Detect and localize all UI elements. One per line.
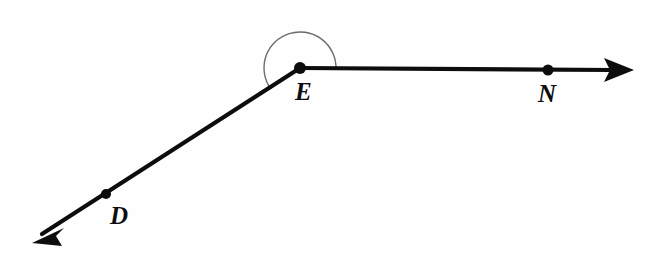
point-label-e: E bbox=[295, 79, 312, 104]
point-dot-e bbox=[294, 62, 306, 74]
point-dot-d bbox=[101, 189, 111, 199]
point-dot-n bbox=[543, 65, 554, 76]
ray-en-line bbox=[300, 68, 612, 70]
point-label-d: D bbox=[110, 203, 128, 228]
geometry-diagram: E D N bbox=[0, 0, 669, 254]
point-label-n: N bbox=[538, 81, 556, 106]
angle-diagram-canvas bbox=[0, 0, 669, 254]
ray-ed-line bbox=[42, 68, 300, 234]
